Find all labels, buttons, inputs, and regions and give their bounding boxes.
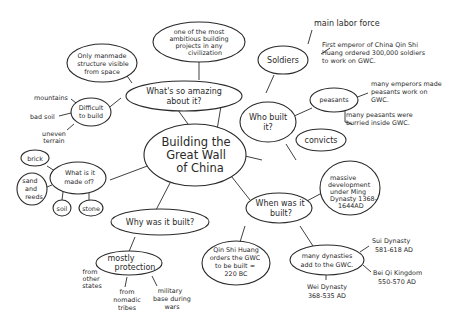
node-text: reeds — [25, 193, 43, 201]
node-text: many dynasties — [302, 252, 353, 260]
node-text: protection — [115, 263, 156, 272]
leaf-text: 368-535 AD — [308, 292, 346, 300]
leaf-bei-qi-kingdom: Bei Qi Kingdom 550-570 AD — [373, 269, 422, 286]
central-topic-line-2: Great Wall — [166, 148, 226, 162]
leaf-text: nomadic — [113, 296, 141, 304]
branch-label-line-1: Who built — [249, 113, 287, 122]
node-soldiers[interactable]: Soldiers — [258, 46, 308, 74]
node-soil[interactable]: soil — [53, 200, 71, 216]
node-text: and — [25, 185, 37, 193]
leaf-text: many emperors made — [371, 80, 442, 88]
leaf-text: peasants work on — [371, 88, 428, 96]
leaf-text: from — [120, 288, 135, 296]
node-convicts[interactable]: convicts — [296, 129, 346, 151]
leaf-text: Wei Dynasty — [307, 283, 347, 291]
branch-label-line-1: What's so amazing — [146, 87, 222, 96]
branch-label-line-2: it? — [263, 123, 273, 132]
mind-map-canvas: Building the Great Wall of China What's … — [0, 0, 452, 327]
leaf-text: 550-570 AD — [378, 278, 416, 286]
leaf-emperors-made-peasants: many emperors made peasants work on GWC. — [371, 80, 442, 104]
leaf-mountains: mountains — [34, 94, 68, 102]
node-stone[interactable]: stone — [79, 200, 103, 216]
node-text: to be built ≈ — [215, 262, 255, 270]
leaf-text: to work on GWC. — [322, 57, 376, 65]
leaf-text: states — [82, 282, 102, 290]
leaf-text: First emperor of China Qin Shi — [322, 41, 418, 49]
node-text: stone — [82, 205, 100, 213]
leaf-text: burried inside GWC. — [346, 119, 410, 127]
leaf-text: tribes — [118, 304, 137, 312]
leaf-text: Sui Dynasty — [372, 237, 410, 245]
node-text: add to the GWC. — [301, 261, 354, 269]
node-text: civilization — [188, 49, 222, 57]
node-text: 220 BC — [225, 270, 249, 278]
branch-label: Why was it built? — [126, 218, 194, 227]
branch-node-when-was-it-built[interactable]: When was it built? — [246, 193, 312, 223]
leaf-qin-shi-huang-soldiers: First emperor of China Qin Shi Huang ord… — [322, 41, 426, 65]
branch-label-line-1: When was it — [255, 199, 304, 208]
leaf-from-nomadic-tribes: from nomadic tribes — [113, 288, 141, 312]
node-text: Soldiers — [267, 56, 299, 65]
node-ming-dynasty[interactable]: massive development under Ming Dynasty 1… — [320, 161, 380, 215]
node-text: mostly — [108, 254, 135, 263]
leaf-bad-soil: bad soil — [30, 113, 55, 121]
node-text: Qin Shi Huang — [213, 246, 259, 254]
node-text: Difficult — [79, 104, 104, 112]
branch-label-line-2: made of? — [64, 178, 94, 186]
node-qin-shi-huang-orders[interactable]: Qin Shi Huang orders the GWC to be built… — [202, 241, 270, 285]
leaf-peasants-buried: many peasants were burried inside GWC. — [346, 111, 413, 127]
node-many-dynasties[interactable]: many dynasties add to the GWC. — [290, 245, 364, 275]
node-text: structure visible — [77, 60, 129, 68]
node-ambitious-project[interactable]: one of the most ambitious building proje… — [153, 22, 245, 62]
node-text: orders the GWC — [210, 254, 261, 262]
branch-node-what-is-it-made-of[interactable]: What is it made of? — [50, 162, 106, 194]
leaf-military-base: military base during wars — [153, 287, 191, 311]
branch-node-why-was-it-built[interactable]: Why was it built? — [111, 209, 209, 235]
central-topic-line-3: of China — [176, 161, 224, 175]
leaf-text: military — [158, 287, 183, 295]
leaf-text: many peasants were — [346, 111, 413, 119]
leaf-text: 581-618 AD — [375, 246, 413, 254]
node-text: from space — [84, 68, 120, 76]
node-visible-from-space[interactable]: Only manmade structure visible from spac… — [67, 44, 137, 82]
leaf-text: Bei Qi Kingdom — [373, 269, 422, 277]
node-mostly-protection[interactable]: mostly protection — [96, 251, 162, 275]
leaf-uneven-terrain: uneven terrain — [42, 130, 66, 145]
branch-label-line-2: built? — [270, 209, 292, 218]
node-difficult-to-build[interactable]: Difficult to build — [71, 98, 111, 126]
leaf-text: base during — [153, 295, 191, 303]
leaf-text: Huang ordered 300,000 soldiers — [322, 49, 426, 57]
leaf-text: terrain — [43, 137, 64, 145]
node-text: 1644AD — [338, 202, 364, 210]
leaf-text: wars — [164, 303, 180, 311]
leaf-text: GWC. — [371, 96, 389, 104]
branch-node-whats-so-amazing[interactable]: What's so amazing about it? — [126, 81, 242, 111]
node-text: peasants — [319, 96, 349, 104]
node-text: convicts — [304, 136, 337, 145]
central-topic-line-1: Building the — [161, 135, 230, 149]
node-text: to build — [79, 112, 103, 120]
branch-label-line-2: about it? — [166, 97, 201, 106]
node-brick[interactable]: brick — [21, 150, 49, 166]
branch-node-who-built-it[interactable]: Who built it? — [240, 102, 296, 142]
central-topic-node[interactable]: Building the Great Wall of China — [144, 124, 246, 186]
leaf-from-other-states: from other states — [82, 268, 102, 290]
leaf-sui-dynasty: Sui Dynasty 581-618 AD — [372, 237, 413, 254]
node-text: soil — [57, 205, 68, 213]
node-text: brick — [27, 155, 43, 163]
node-sand-and-reeds[interactable]: sand and reeds — [17, 173, 47, 205]
node-peasants[interactable]: peasants — [310, 88, 358, 112]
node-text: Only manmade — [78, 52, 127, 60]
branch-label-line-1: What is it — [65, 169, 96, 177]
leaf-wei-dynasty: Wei Dynasty 368-535 AD — [307, 283, 347, 300]
leaf-main-labor-force: main labor force — [314, 19, 380, 28]
node-text: sand — [22, 177, 37, 185]
